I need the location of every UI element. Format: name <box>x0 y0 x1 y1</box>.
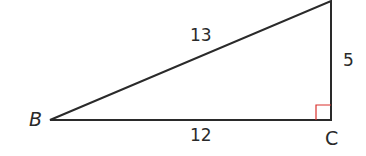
triangle-shape <box>50 1 331 120</box>
right-angle-marker <box>316 105 331 120</box>
hypotenuse-length-label: 13 <box>190 27 212 44</box>
vertex-label-b: B <box>29 110 42 129</box>
vertical-side-length-label: 5 <box>343 52 354 69</box>
right-triangle-diagram: B C 13 12 5 <box>0 0 366 156</box>
base-length-label: 12 <box>190 127 212 144</box>
vertex-label-c: C <box>325 129 338 148</box>
triangle-figure <box>0 0 366 156</box>
